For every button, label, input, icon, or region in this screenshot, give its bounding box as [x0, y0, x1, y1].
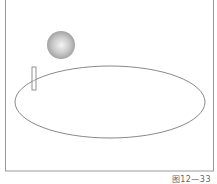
figure-diagram — [0, 0, 217, 184]
figure-frame — [6, 0, 214, 171]
figure-caption: 图12—33 — [172, 173, 211, 184]
rectangle-marker — [32, 67, 36, 90]
ellipse-track — [15, 66, 205, 138]
ball — [47, 31, 75, 59]
